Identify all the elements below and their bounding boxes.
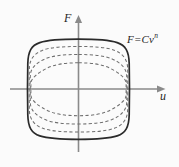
equation-annotation: F=Cvn (127, 32, 158, 45)
axis-label-F: F (64, 12, 71, 24)
vertical-axis-arrowhead (75, 15, 82, 23)
figure-container: F u F=Cvn (0, 0, 179, 167)
equation-base-text: F=Cv (127, 33, 154, 45)
axis-label-u: u (160, 90, 166, 102)
equation-exponent-text: n (154, 31, 158, 40)
plot-canvas (0, 0, 179, 167)
